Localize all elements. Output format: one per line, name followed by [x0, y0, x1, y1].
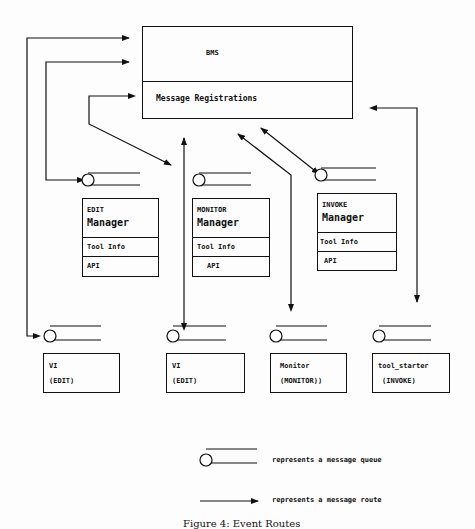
queue-edit-manager: [82, 173, 140, 186]
monitor-manager-box: MONITOR Manager Tool Info API: [192, 198, 270, 277]
manager-tool-name: INVOKE: [322, 201, 347, 209]
queue-vi1: [44, 326, 101, 342]
manager-label: Manager: [87, 217, 129, 228]
manager-label: Manager: [322, 212, 364, 223]
tool-type: (INVOKE): [382, 377, 416, 385]
legend-queue-icon: [200, 449, 257, 466]
tool-type: (MONITOR)): [280, 377, 322, 385]
route-edit-mgr-bms: [46, 62, 129, 180]
tool-box-tool-starter: tool_starter (INVOKE): [372, 353, 450, 393]
tool-name: Monitor: [280, 362, 310, 370]
queue-monitor-manager: [193, 173, 251, 186]
queue-vi2: [167, 326, 226, 342]
invoke-manager-box: INVOKE Manager Tool Info API: [317, 193, 397, 271]
figure-caption: Figure 4: Event Routes: [183, 518, 300, 529]
tool-type: (EDIT): [49, 377, 74, 385]
manager-tool-name: MONITOR: [197, 206, 227, 214]
bms-box: BMS Message Registrations: [142, 26, 353, 119]
tool-box-vi-1: VI (EDIT): [43, 353, 120, 393]
legend-queue-label: represents a message queue: [272, 456, 382, 464]
edit-manager-box: EDIT Manager Tool Info API: [82, 198, 159, 277]
manager-tool-name: EDIT: [87, 206, 104, 214]
tool-name: tool_starter: [378, 362, 429, 370]
tool-type: (EDIT): [172, 377, 197, 385]
tool-box-monitor: Monitor (MONITOR)): [270, 353, 347, 393]
queue-monitor: [270, 326, 327, 342]
route-invoke-mgr-bms: [261, 128, 314, 170]
tool-info-label: Tool Info: [197, 243, 235, 251]
tool-name: VI: [49, 362, 57, 370]
tool-box-vi-2: VI (EDIT): [166, 353, 245, 393]
route-vi1-bms: [27, 38, 129, 336]
message-registrations-label: Message Registrations: [156, 94, 257, 103]
api-label: API: [87, 262, 100, 270]
manager-label: Manager: [197, 217, 239, 228]
legend-route-label: represents a message route: [272, 496, 382, 504]
api-label: API: [207, 262, 220, 270]
queue-invoke-manager: [315, 168, 376, 181]
tool-name: VI: [172, 362, 180, 370]
tool-info-label: Tool Info: [320, 238, 358, 246]
bms-title: BMS: [206, 49, 219, 57]
tool-info-label: Tool Info: [87, 243, 125, 251]
api-label: API: [324, 257, 337, 265]
queue-toolstarter: [373, 326, 431, 342]
